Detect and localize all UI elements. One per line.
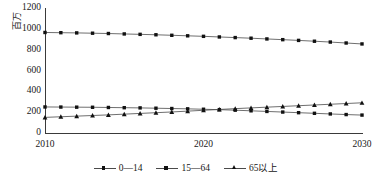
data-point [123,106,126,109]
data-point [186,34,189,37]
data-point [91,106,94,109]
data-point [154,33,157,36]
data-point [91,32,94,35]
data-point [265,110,268,113]
data-point [281,38,284,41]
data-point [329,112,332,115]
data-point [360,42,363,45]
data-point [297,39,300,42]
legend-label: 0—14 [119,163,143,173]
data-point [249,37,252,40]
series-2 [43,31,363,46]
legend-item[interactable]: 15—64 [156,163,210,173]
data-point [313,40,316,43]
data-point [234,36,237,39]
data-point [43,105,46,108]
data-point [360,113,363,116]
data-point [313,112,316,115]
data-point [75,105,78,108]
series-3 [43,100,365,119]
chart-legend: 0—1415—6465以上 [0,160,372,176]
square-marker-icon [156,164,178,172]
data-point [123,32,126,35]
data-point [281,110,284,113]
legend-label: 15—64 [181,163,210,173]
data-point [344,113,347,116]
data-point [59,105,62,108]
legend-label: 65以上 [249,163,279,173]
data-point [344,41,347,44]
data-point [170,34,173,37]
data-point [75,31,78,34]
triangle-marker-icon [224,164,246,172]
legend-item[interactable]: 65以上 [224,163,279,173]
chart-container: 百万 020040060080010001200 201020202030 0—… [0,0,372,183]
data-point [59,31,62,34]
data-point [329,40,332,43]
data-point [138,33,141,36]
data-point [43,31,46,34]
data-point [265,37,268,40]
legend-item[interactable]: 0—14 [94,163,143,173]
data-point [154,107,157,110]
data-point [107,32,110,35]
data-point [218,35,221,38]
data-point [202,35,205,38]
data-point [107,106,110,109]
square-marker-icon [94,164,116,172]
data-point [297,111,300,114]
data-point [138,106,141,109]
plot-series-layer [0,0,372,183]
